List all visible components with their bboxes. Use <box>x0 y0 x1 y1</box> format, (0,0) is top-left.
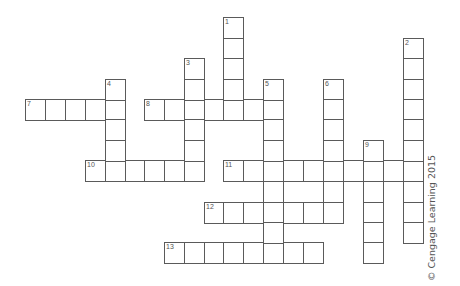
crossword-cell[interactable] <box>323 140 344 162</box>
crossword-cell[interactable] <box>303 160 324 182</box>
crossword-cell[interactable] <box>184 140 205 162</box>
clue-number: 6 <box>325 80 329 88</box>
crossword-cell[interactable] <box>363 242 384 264</box>
crossword-cell[interactable] <box>303 202 324 224</box>
crossword-cell[interactable] <box>263 242 284 264</box>
clue-number: 2 <box>405 39 409 47</box>
clue-number: 13 <box>166 243 174 251</box>
clue-number: 3 <box>186 59 190 67</box>
crossword-cell[interactable] <box>363 202 384 224</box>
crossword-cell[interactable] <box>45 99 66 121</box>
crossword-cell[interactable]: 8 <box>144 99 165 121</box>
crossword-cell[interactable] <box>164 160 185 182</box>
crossword-cell[interactable]: 9 <box>363 140 384 162</box>
crossword-cell[interactable] <box>184 119 205 141</box>
crossword-cell[interactable] <box>323 160 344 182</box>
crossword-cell[interactable] <box>223 58 244 80</box>
crossword-cell[interactable]: 12 <box>204 202 225 224</box>
crossword-cell[interactable] <box>403 58 424 80</box>
crossword-cell[interactable]: 11 <box>223 160 244 182</box>
crossword-cell[interactable] <box>363 160 384 182</box>
crossword-cell[interactable] <box>323 181 344 203</box>
crossword-cell[interactable] <box>204 99 225 121</box>
crossword-cell[interactable] <box>184 160 205 182</box>
crossword-cell[interactable] <box>403 202 424 224</box>
clue-number: 7 <box>27 100 31 108</box>
crossword-cell[interactable]: 3 <box>184 58 205 80</box>
crossword-cell[interactable] <box>263 140 284 162</box>
clue-number: 11 <box>225 161 232 169</box>
crossword-cell[interactable] <box>363 181 384 203</box>
crossword-cell[interactable]: 7 <box>25 99 46 121</box>
crossword-cell[interactable] <box>263 202 284 224</box>
crossword-cell[interactable] <box>105 160 126 182</box>
crossword-cell[interactable] <box>85 99 106 121</box>
crossword-cell[interactable] <box>363 222 384 244</box>
crossword-cell[interactable] <box>263 222 284 244</box>
crossword-cell[interactable]: 5 <box>263 79 284 101</box>
crossword-cell[interactable] <box>223 79 244 101</box>
clue-number: 9 <box>365 141 369 149</box>
crossword-cell[interactable] <box>383 160 404 182</box>
crossword-cell[interactable] <box>403 79 424 101</box>
copyright-notice: © Cengage Learning 2015 <box>426 155 437 281</box>
crossword-cell[interactable] <box>243 242 264 264</box>
crossword-cell[interactable] <box>303 242 324 264</box>
clue-number: 1 <box>225 18 229 26</box>
crossword-cell[interactable] <box>223 99 244 121</box>
crossword-cell[interactable] <box>223 202 244 224</box>
crossword-cell[interactable] <box>144 160 165 182</box>
clue-number: 8 <box>146 100 150 108</box>
crossword-cell[interactable] <box>403 99 424 121</box>
crossword-grid: 78101112131234569 <box>0 0 460 286</box>
crossword-cell[interactable] <box>283 202 304 224</box>
crossword-cell[interactable] <box>105 140 126 162</box>
crossword-cell[interactable] <box>223 38 244 60</box>
crossword-cell[interactable] <box>164 99 185 121</box>
crossword-cell[interactable]: 4 <box>105 79 126 101</box>
crossword-cell[interactable] <box>263 160 284 182</box>
clue-number: 10 <box>87 161 95 169</box>
crossword-cell[interactable] <box>184 79 205 101</box>
crossword-cell[interactable]: 13 <box>164 242 185 264</box>
clue-number: 5 <box>265 80 269 88</box>
crossword-cell[interactable] <box>323 99 344 121</box>
crossword-cell[interactable] <box>403 140 424 162</box>
crossword-cell[interactable] <box>105 119 126 141</box>
crossword-cell[interactable] <box>125 160 146 182</box>
crossword-cell[interactable]: 10 <box>85 160 106 182</box>
crossword-cell[interactable] <box>243 99 264 121</box>
crossword-cell[interactable] <box>263 99 284 121</box>
crossword-cell[interactable] <box>223 242 244 264</box>
crossword-cell[interactable] <box>343 160 364 182</box>
crossword-cell[interactable]: 2 <box>403 38 424 60</box>
crossword-cell[interactable] <box>243 160 264 182</box>
clue-number: 4 <box>107 80 111 88</box>
crossword-cell[interactable] <box>403 119 424 141</box>
crossword-cell[interactable] <box>204 242 225 264</box>
crossword-cell[interactable] <box>105 99 126 121</box>
crossword-cell[interactable] <box>283 242 304 264</box>
crossword-cell[interactable]: 1 <box>223 17 244 39</box>
crossword-cell[interactable] <box>283 160 304 182</box>
crossword-cell[interactable] <box>184 99 205 121</box>
crossword-cell[interactable] <box>403 160 424 182</box>
crossword-cell[interactable] <box>65 99 86 121</box>
crossword-cell[interactable]: 6 <box>323 79 344 101</box>
crossword-cell[interactable] <box>403 222 424 244</box>
crossword-cell[interactable] <box>263 119 284 141</box>
clue-number: 12 <box>206 203 214 211</box>
crossword-cell[interactable] <box>323 119 344 141</box>
crossword-cell[interactable] <box>403 181 424 203</box>
crossword-cell[interactable] <box>243 202 264 224</box>
crossword-cell[interactable] <box>263 181 284 203</box>
crossword-cell[interactable] <box>184 242 205 264</box>
crossword-cell[interactable] <box>323 202 344 224</box>
